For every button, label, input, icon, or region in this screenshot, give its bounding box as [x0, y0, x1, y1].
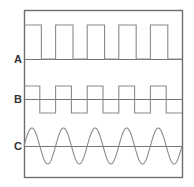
- trace-label-a: A: [14, 54, 22, 65]
- figure-background: [0, 0, 194, 187]
- trace-label-c: C: [14, 141, 22, 152]
- trace-label-b: B: [14, 94, 22, 105]
- waveform-diagram: [0, 0, 194, 187]
